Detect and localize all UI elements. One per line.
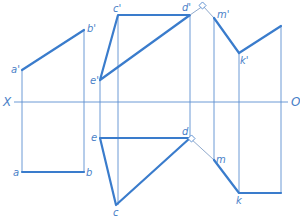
label-k: k — [236, 195, 243, 206]
label-d-prime: d' — [182, 2, 191, 13]
label-k-prime: k' — [240, 55, 249, 66]
label-e-prime: e' — [90, 75, 99, 86]
label-m: m — [216, 154, 226, 165]
perpendicular-to-m-prime — [203, 6, 214, 18]
label-c-prime: c' — [113, 3, 121, 14]
axis-label-x: X — [2, 95, 12, 109]
triangle-c-d-e — [100, 138, 190, 205]
label-b: b — [86, 167, 92, 178]
label-d: d — [182, 126, 189, 137]
label-a: a — [13, 167, 19, 178]
label-c: c — [113, 207, 119, 218]
label-m-prime: m' — [217, 9, 230, 20]
line-a-prime-b-prime — [22, 30, 84, 70]
line-m-prime-k-prime — [214, 18, 281, 53]
axis-label-o: O — [291, 95, 300, 109]
triangle-c-prime-d-prime-e-prime — [100, 15, 190, 80]
label-e: e — [91, 132, 97, 143]
projection-diagram: X O a' b' c' d' e' m' k' a b e d c m k — [0, 0, 300, 222]
label-a-prime: a' — [11, 64, 20, 75]
perpendicular-d-m — [190, 138, 214, 160]
label-b-prime: b' — [87, 23, 96, 34]
